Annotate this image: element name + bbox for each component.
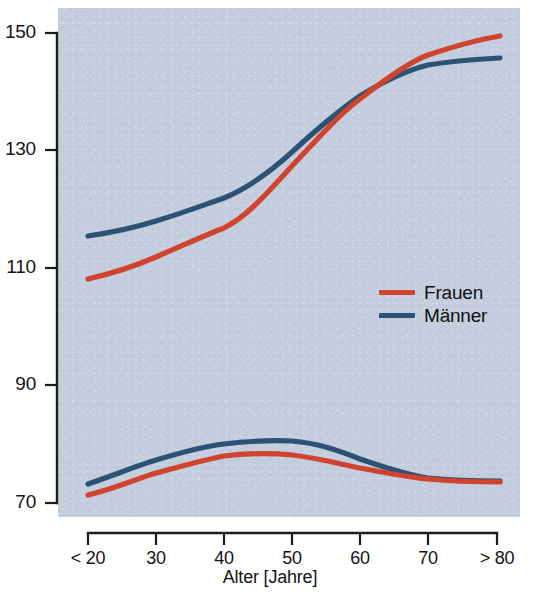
legend-swatch-maenner: [379, 313, 415, 318]
blood-pressure-age-chart: 150 130 110 90 70 < 20 30 40 50 60 70 > …: [0, 0, 540, 599]
x-axis-label-40: 40: [194, 548, 254, 569]
x-axis-label-50: 50: [262, 548, 322, 569]
legend-swatch-frauen: [379, 290, 415, 295]
x-axis-label-lt20: < 20: [58, 548, 118, 569]
chart-legend: Frauen Männer: [379, 281, 487, 327]
x-axis-label-60: 60: [330, 548, 390, 569]
series-line-maenner-systolic: [88, 58, 500, 236]
legend-label-frauen: Frauen: [424, 283, 483, 302]
x-axis-label-70: 70: [398, 548, 458, 569]
legend-label-maenner: Männer: [424, 306, 487, 325]
y-axis-label-90: 90: [0, 373, 36, 395]
y-axis-label-130: 130: [0, 138, 36, 160]
x-axis-label-30: 30: [126, 548, 186, 569]
series-line-frauen-systolic: [88, 36, 500, 279]
y-axis-label-110: 110: [0, 256, 36, 278]
y-axis-label-70: 70: [0, 491, 36, 513]
legend-item-frauen: Frauen: [379, 281, 487, 304]
legend-item-maenner: Männer: [379, 304, 487, 327]
x-axis-label-gt80: > 80: [467, 548, 527, 569]
x-axis-title: Alter [Jahre]: [0, 567, 540, 588]
y-axis-label-150: 150: [0, 21, 36, 43]
